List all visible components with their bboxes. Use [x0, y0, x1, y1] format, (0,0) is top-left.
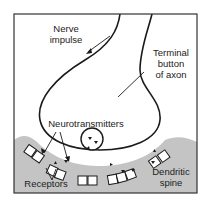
vesicle	[81, 128, 103, 150]
label-terminal-button: Terminalbuttonof axon	[146, 47, 196, 80]
label-neurotransmitters: Neurotransmitters	[38, 118, 134, 129]
label-receptors: Receptors	[18, 178, 74, 189]
impulse-arrowhead	[86, 48, 92, 54]
label-nerve-impulse: Nerveimpulse	[44, 23, 88, 45]
label-dendritic-spine: Dendriticspine	[146, 166, 196, 188]
